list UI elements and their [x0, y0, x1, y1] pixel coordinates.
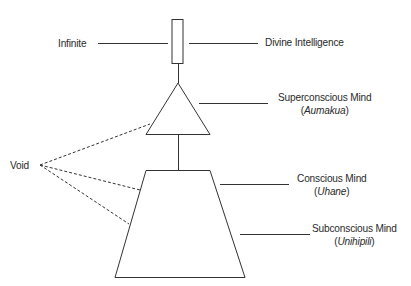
conscious-title: Conscious Mind [297, 172, 367, 185]
void-dashed-line-triangle [40, 124, 150, 165]
label-divine-intelligence: Divine Intelligence [265, 36, 344, 49]
label-infinite: Infinite [58, 37, 86, 50]
label-superconscious: Superconscious Mind (Aumakua) [278, 91, 371, 117]
subconscious-title: Subconscious Mind [312, 222, 397, 235]
conscious-hawaiian: (Uhane) [297, 185, 367, 198]
void-dashed-line-conscious [40, 165, 140, 190]
label-subconscious: Subconscious Mind (Unihipili) [312, 222, 397, 248]
label-void: Void [10, 159, 29, 172]
superconscious-hawaiian: (Aumakua) [278, 104, 371, 117]
subconscious-hawaiian: (Unihipili) [312, 235, 397, 248]
label-conscious: Conscious Mind (Uhane) [297, 172, 367, 198]
superconscious-title: Superconscious Mind [278, 91, 371, 104]
void-dashed-line-subconscious [40, 165, 129, 224]
infinite-rectangle [172, 20, 183, 64]
mind-trapezoid [115, 171, 245, 278]
superconscious-triangle [146, 83, 210, 135]
